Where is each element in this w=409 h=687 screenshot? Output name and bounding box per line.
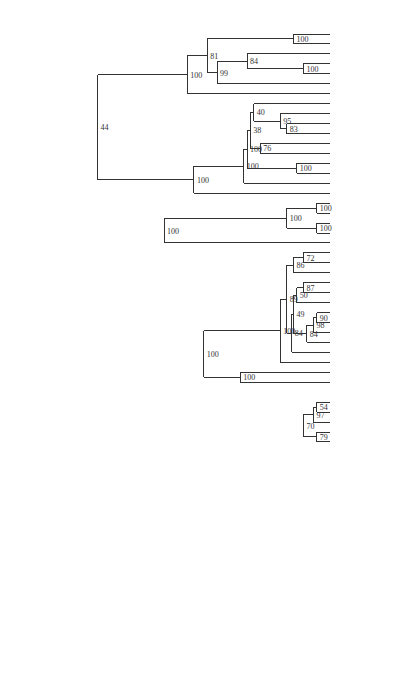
support-value: 100 — [197, 176, 209, 185]
support-value: 100 — [207, 350, 219, 359]
support-value: 38 — [253, 126, 261, 135]
support-value: 81 — [210, 52, 218, 61]
support-value: 84 — [295, 329, 303, 338]
support-value: 100 — [247, 162, 259, 171]
support-value: 84 — [310, 330, 318, 339]
bootstrap-support-values: 1001008499811008395407638100100100100441… — [101, 35, 332, 442]
support-value: 72 — [306, 254, 314, 263]
support-value: 100 — [190, 71, 202, 80]
support-value: 89 — [290, 295, 298, 304]
tree-branches — [98, 34, 330, 442]
support-value: 100 — [296, 35, 308, 44]
support-value: 70 — [306, 422, 314, 431]
support-value: 40 — [257, 108, 265, 117]
support-value: 100 — [290, 214, 302, 223]
support-value: 100 — [250, 145, 262, 154]
support-value: 100 — [300, 164, 312, 173]
support-value: 95 — [283, 117, 291, 126]
support-value: 100 — [243, 373, 255, 382]
support-value: 44 — [101, 123, 109, 132]
support-value: 100 — [320, 224, 332, 233]
language-dendrogram: 1001008499811008395407638100100100100441… — [0, 0, 409, 687]
support-value: 100 — [306, 65, 318, 74]
support-value: 79 — [320, 433, 328, 442]
support-value: 100 — [283, 327, 295, 336]
support-value: 99 — [220, 69, 228, 78]
support-value: 86 — [296, 261, 304, 270]
support-value: 50 — [300, 291, 308, 300]
support-value: 97 — [316, 411, 324, 420]
support-value: 76 — [263, 144, 271, 153]
support-value: 100 — [320, 204, 332, 213]
support-value: 100 — [167, 227, 179, 236]
support-value: 49 — [296, 310, 304, 319]
support-value: 84 — [250, 57, 258, 66]
support-value: 98 — [316, 321, 324, 330]
